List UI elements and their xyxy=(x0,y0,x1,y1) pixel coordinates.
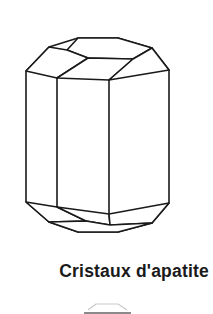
caption-text: Cristaux d'apatite xyxy=(59,263,209,281)
next-figure-edge-top xyxy=(88,304,127,310)
figure-panel: Cristaux d'apatite xyxy=(0,0,213,314)
apatite-crystal-illustration xyxy=(0,0,213,250)
crystal-faces xyxy=(26,38,169,232)
cropped-next-illustration xyxy=(0,296,213,314)
figure-caption: Cristaux d'apatite xyxy=(0,258,213,286)
